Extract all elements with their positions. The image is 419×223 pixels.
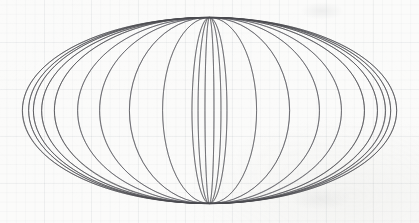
nested-ellipse-figure: Nested ellipse wireframe Family of conce… [0,0,419,223]
ellipse-path [42,17,378,203]
ellipse-group [22,17,396,203]
ellipse-path [198,17,221,203]
ellipse-path [78,17,342,203]
ellipse-path [205,18,214,204]
ellipse-path [54,17,364,203]
ellipse-path [22,17,396,203]
ellipse-path [192,17,227,203]
ellipse-path [129,18,289,204]
ellipse-path [163,17,257,203]
ellipse-path [163,17,257,203]
ellipse-path [22,17,396,203]
ellipse-path [42,17,378,203]
ellipse-path [33,17,385,203]
ellipse-path [78,17,342,203]
ellipse-path [100,18,320,204]
ellipse-path [33,17,385,203]
ellipse-path [129,17,289,203]
ellipse-path [54,17,364,203]
drawing-canvas: Nested ellipse wireframe Family of conce… [0,0,419,223]
ellipse-path [100,18,320,204]
